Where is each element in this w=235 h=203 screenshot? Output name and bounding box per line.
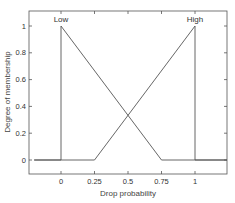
y-tick-label: 1	[22, 22, 26, 31]
x-tick-label: 0	[59, 177, 63, 186]
annotation-low: Low	[54, 15, 69, 24]
y-tick-label: 0.4	[16, 102, 26, 111]
plot-background	[29, 11, 227, 174]
x-tick-label: 0.75	[154, 177, 169, 186]
y-tick-label: 0.6	[16, 75, 26, 84]
x-tick-label: 0.25	[87, 177, 102, 186]
x-tick-label: 1	[193, 177, 197, 186]
y-tick-label: 0.8	[16, 48, 26, 57]
x-tick-label: 0.5	[123, 177, 133, 186]
y-tick-label: 0.2	[16, 129, 26, 138]
membership-chart: 00.20.40.60.81 00.250.50.751 LowHigh Dro…	[0, 0, 235, 203]
y-axis-label: Degree of membership	[3, 51, 12, 133]
annotation-high: High	[187, 15, 203, 24]
x-axis-label: Drop probability	[100, 189, 156, 198]
y-tick-label: 0	[22, 156, 26, 165]
